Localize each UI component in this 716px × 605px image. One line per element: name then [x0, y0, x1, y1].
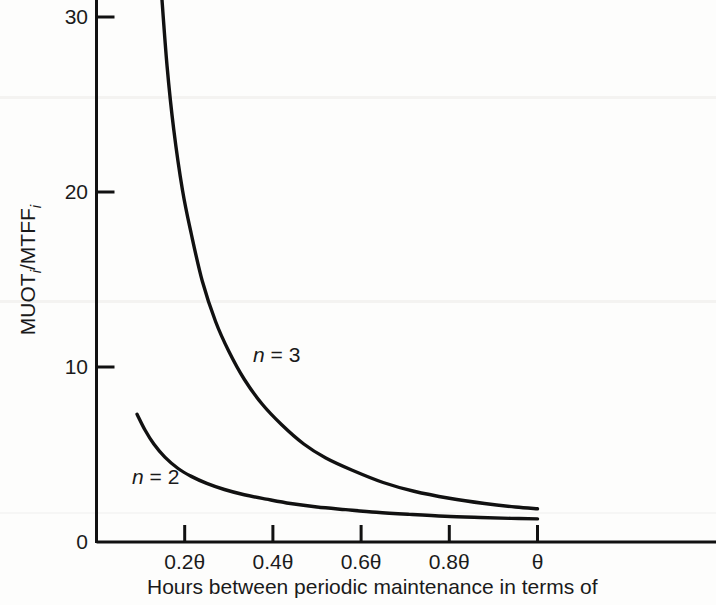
- y-axis-title-sub-1: i: [27, 270, 44, 273]
- y-axis-title-sub-2: i: [27, 205, 44, 208]
- x-axis-tick-label: 0.6θ: [321, 551, 401, 572]
- y-axis-tick-label: 30: [40, 6, 88, 27]
- y-axis-tick-label: 20: [40, 181, 88, 202]
- y-axis-tick-label: 10: [40, 356, 88, 377]
- curve-label-n-2: n = 2: [132, 465, 179, 489]
- plot-area: [0, 0, 716, 605]
- curve-label-n-3-var: n: [253, 343, 265, 366]
- curve-label-n-3-value: 3: [289, 343, 301, 366]
- x-axis-tick-label: 0.2θ: [145, 551, 225, 572]
- curve-label-n-2-value: 2: [168, 465, 180, 488]
- x-axis-ticks: [185, 525, 538, 542]
- x-axis-tick-label: 0.8θ: [409, 551, 489, 572]
- y-axis-title-mid: /MTFF: [16, 208, 39, 270]
- x-axis-tick-label: θ: [498, 551, 578, 572]
- y-axis-title: MUOTi/MTFFi: [16, 205, 43, 335]
- curve-label-n-2-var: n: [132, 465, 144, 488]
- y-axis-tick-label: 0: [40, 531, 88, 552]
- x-axis-title: Hours between periodic maintenance in te…: [147, 575, 598, 599]
- x-axis-tick-label: 0.4θ: [233, 551, 313, 572]
- y-axis-title-main: MUOT: [16, 273, 39, 335]
- y-axis-ticks: [97, 17, 115, 367]
- curve-label-n-3: n = 3: [253, 343, 300, 367]
- curve-n-3: [161, 0, 537, 509]
- figure-canvas: 0102030 0.2θ0.4θ0.6θ0.8θθ MUOTi/MTFFi Ho…: [0, 0, 716, 605]
